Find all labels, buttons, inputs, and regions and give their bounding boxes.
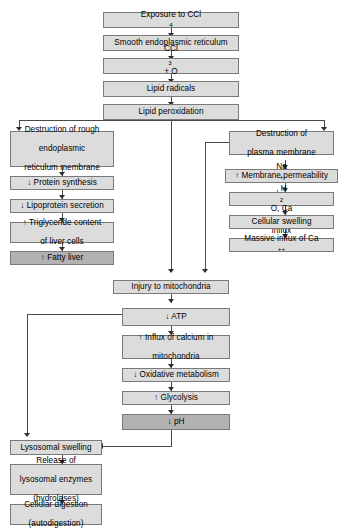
node-lipid-peroxidation-label: Lipid peroxidation <box>106 107 236 117</box>
node-lipid-radicals: Lipid radicals <box>103 81 239 97</box>
node-rougher-line3: reticulum membrane <box>13 163 111 173</box>
arrowhead-atp <box>168 299 174 303</box>
connector-plasma-to-mito-horizontal <box>205 142 229 143</box>
arrowhead-mitochondria-right <box>202 269 208 273</box>
node-lipid-radicals-label: Lipid radicals <box>106 84 236 94</box>
node-fatty-liver: ↑ Fatty liver <box>10 251 114 265</box>
node-cellular-swelling-label: Cellular swelling <box>232 217 331 227</box>
node-water-prefix: , H <box>232 184 331 194</box>
node-digestion-line2: (autodigestion) <box>13 519 99 528</box>
node-triglyceride-content: ↑ Triglyceride content of liver cells <box>10 222 114 243</box>
connector-atp-to-lysosomal-vertical <box>27 314 28 436</box>
arrowhead-lysosomal-swelling-top <box>24 433 30 437</box>
connector-ph-to-lysosomal-horizontal <box>101 446 172 447</box>
node-injury-mitochondria-label: Injury to mitochondria <box>116 282 226 292</box>
node-oxidative-metabolism: ↓ Oxidative metabolism <box>122 368 230 382</box>
node-calcium-influx-mitochondria: ↑ Influx of calcium in mitochondria <box>122 335 230 359</box>
node-rougher-line1: Destruction of rough <box>13 125 111 135</box>
node-exposure-to-ccl4: Exposure to CCl4 <box>103 12 239 28</box>
node-lipoprotein-secretion-label: ↓ Lipoprotein secretion <box>13 201 111 211</box>
node-injury-to-mitochondria: Injury to mitochondria <box>113 280 229 294</box>
node-ph-label: ↓ pH <box>125 417 227 427</box>
connector-ph-to-lysosomal-vertical <box>171 430 172 446</box>
node-ion-influx: Na+, H2O, Ca++ influx <box>229 192 334 206</box>
node-ccl3-mid: + O <box>106 67 236 77</box>
connector-plasma-to-mito-vertical <box>205 142 206 272</box>
node-destruction-plasma-membrane: Destruction of plasma membrane <box>229 131 334 155</box>
node-decreased-ph: ↓ pH <box>122 414 230 430</box>
node-triglyceride-line1: ↑ Triglyceride content <box>13 218 111 228</box>
node-protein-synthesis-label: ↓ Protein synthesis <box>13 178 111 188</box>
node-ccl3-radical-oxygen: CCl3˙ + O2 <box>103 58 239 74</box>
arrowhead-mitochondria-center <box>168 269 174 273</box>
node-protein-synthesis: ↓ Protein synthesis <box>10 176 114 190</box>
node-calcium-prefix: O, Ca <box>232 204 331 214</box>
node-plasma-line2: plasma membrane <box>232 148 331 158</box>
node-lysosomal-enzymes-release: Release of lysosomal enzymes (hydrolases… <box>10 464 102 495</box>
node-triglyceride-line2: of liver cells <box>13 237 111 247</box>
node-digestion-line1: Cellular digestion <box>13 500 99 510</box>
node-enzymes-line2: lysosomal enzymes <box>13 475 99 485</box>
node-rougher-line2: endoplasmic <box>13 144 111 154</box>
node-lysosomal-swelling: Lysosomal swelling <box>10 440 102 455</box>
node-massive-calcium-charge: ++ <box>278 245 285 252</box>
node-ccl3-prefix: CCl <box>106 44 236 54</box>
flowchart-diagram: Exposure to CCl4 Smooth endoplasmic reti… <box>0 0 344 528</box>
node-sodium-charge: + <box>280 173 284 180</box>
node-fatty-liver-label: ↑ Fatty liver <box>13 253 111 263</box>
node-glycolysis-label: ↑ Glycolysis <box>125 393 227 403</box>
node-exposure-label: Exposure to CCl <box>106 10 236 20</box>
node-enzymes-line1: Release of <box>13 456 99 466</box>
node-water-subscript: 2 <box>280 196 284 203</box>
connector-peroxidation-to-mitochondria <box>171 120 172 272</box>
node-glycolysis: ↑ Glycolysis <box>122 391 230 405</box>
node-plasma-line1: Destruction of <box>232 129 331 139</box>
node-lipid-peroxidation: Lipid peroxidation <box>103 104 239 120</box>
node-calcium-mito-line2: mitochondria <box>125 352 227 362</box>
node-atp-label: ↓ ATP <box>125 312 227 322</box>
node-oxidative-metabolism-label: ↓ Oxidative metabolism <box>125 370 227 380</box>
node-cellular-swelling: Cellular swelling <box>229 215 334 229</box>
node-massive-calcium-label: Massive influx of Ca <box>232 234 331 244</box>
node-sodium-label: Na <box>232 162 331 172</box>
node-ccl3-radical-dot: ˙ <box>172 55 174 62</box>
node-massive-calcium-influx: Massive influx of Ca++ <box>229 238 334 252</box>
node-destruction-rough-er: Destruction of rough endoplasmic reticul… <box>10 131 114 167</box>
node-exposure-subscript: 4 <box>169 22 173 29</box>
connector-atp-to-lysosomal-horizontal <box>27 314 123 315</box>
node-lysosomal-swelling-label: Lysosomal swelling <box>13 443 99 453</box>
node-lipoprotein-secretion: ↓ Lipoprotein secretion <box>10 199 114 213</box>
node-calcium-mito-line1: ↑ Influx of calcium in <box>125 333 227 343</box>
node-decreased-atp: ↓ ATP <box>122 308 230 326</box>
node-cellular-digestion: Cellular digestion (autodigestion) <box>10 504 102 525</box>
